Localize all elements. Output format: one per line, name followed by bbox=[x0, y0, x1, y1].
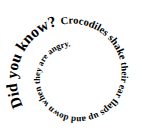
spiral-segment: up and down when bbox=[32, 84, 101, 125]
spiral-segment: Did you know? bbox=[3, 11, 62, 111]
spiral-segment: they are angry. bbox=[32, 38, 71, 84]
spiral-textpath: Did you know? Crocodiles shake their ear… bbox=[3, 11, 130, 125]
spiral-segment: their ear flaps bbox=[96, 61, 129, 119]
spiral-segment: Crocodiles shake bbox=[60, 14, 130, 63]
spiral-text-graphic: Did you know? Crocodiles shake their ear… bbox=[0, 0, 149, 138]
spiral-text: Did you know? Crocodiles shake their ear… bbox=[3, 11, 130, 125]
